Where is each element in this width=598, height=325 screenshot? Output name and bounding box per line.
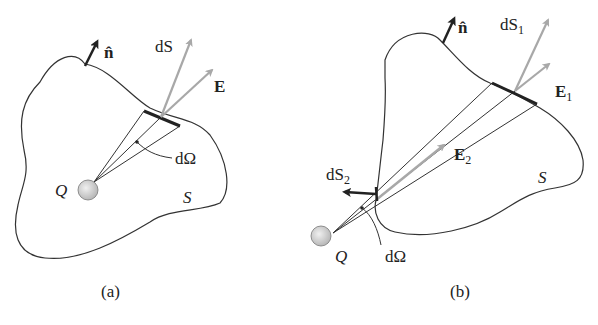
gauss-law-diagram: n̂ dS E dΩ Q S (a) n̂ bbox=[0, 0, 598, 325]
dS1-label: dS1 bbox=[500, 15, 524, 37]
dS-label-a: dS bbox=[155, 37, 173, 56]
E-vector-a bbox=[161, 70, 212, 117]
dS2-label: dS2 bbox=[326, 165, 350, 187]
charge-q-b bbox=[311, 226, 331, 246]
dOmega-label-a: dΩ bbox=[175, 149, 196, 168]
surface-label-a: S bbox=[183, 188, 192, 207]
surface-outline-b bbox=[375, 33, 583, 234]
caption-a: (a) bbox=[101, 282, 120, 301]
surface-patch-b2 bbox=[376, 187, 377, 201]
E2-vector bbox=[376, 145, 444, 200]
charge-label-b: Q bbox=[335, 247, 347, 266]
charge-label-a: Q bbox=[55, 181, 67, 200]
E-label-a: E bbox=[214, 77, 225, 96]
dS2-vector bbox=[345, 192, 376, 194]
cone-line bbox=[94, 111, 144, 182]
normal-arrow-b bbox=[443, 19, 454, 43]
normal-arrow-a bbox=[85, 42, 97, 66]
dOmega-label-b: dΩ bbox=[385, 247, 406, 266]
E2-label: E2 bbox=[454, 145, 471, 167]
normal-label-b: n̂ bbox=[458, 18, 468, 37]
cone-line bbox=[94, 117, 161, 182]
caption-b: (b) bbox=[450, 282, 470, 301]
surface-label-b: S bbox=[538, 168, 547, 187]
dOmega-leader-b bbox=[362, 208, 381, 245]
charge-q-a bbox=[78, 180, 98, 200]
normal-label-a: n̂ bbox=[104, 43, 114, 62]
panel-b: n̂ dS1 E1 E2 dS2 dΩ Q S (b) bbox=[311, 15, 583, 301]
surface-patch-b1 bbox=[492, 83, 537, 104]
panel-a: n̂ dS E dΩ Q S (a) bbox=[15, 37, 226, 301]
E1-label: E1 bbox=[555, 82, 572, 104]
cone-line bbox=[333, 104, 537, 233]
cone-line bbox=[94, 126, 180, 182]
